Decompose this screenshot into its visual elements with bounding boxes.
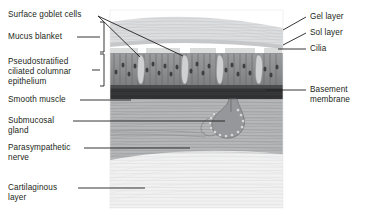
label-surface-goblet-cells: Surface goblet cells bbox=[8, 10, 81, 20]
label-parasympathetic-nerve: Parasympathetic nerve bbox=[8, 143, 70, 163]
illustration-panel bbox=[110, 10, 283, 208]
label-cilia: Cilia bbox=[310, 44, 326, 54]
cartilaginous-layer-region bbox=[110, 149, 283, 208]
label-mucus-blanket: Mucus blanket bbox=[8, 32, 62, 42]
label-pseudostratified-ciliated-columnar-epithelium: Pseudostratified ciliated columnar epith… bbox=[8, 57, 71, 88]
airway-wall-figure: Surface goblet cells Mucus blanket Pseud… bbox=[0, 0, 368, 223]
label-smooth-muscle: Smooth muscle bbox=[8, 95, 66, 105]
label-cartilaginous-layer: Cartilaginous layer bbox=[8, 183, 57, 203]
label-gel-layer: Gel layer bbox=[310, 12, 344, 22]
label-submucosal-gland: Submucosal gland bbox=[8, 116, 54, 136]
label-sol-layer: Sol layer bbox=[310, 28, 343, 38]
basement-membrane-band bbox=[110, 85, 283, 88]
label-basement-membrane: Basement membrane bbox=[310, 85, 350, 105]
